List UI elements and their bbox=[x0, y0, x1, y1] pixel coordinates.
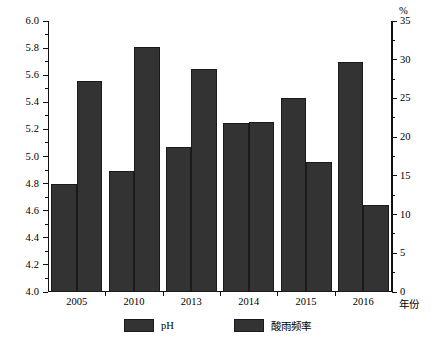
left-minor-tick-mark bbox=[45, 170, 48, 171]
x-axis-title: 年份 bbox=[399, 296, 419, 311]
right-tick-label: 5 bbox=[400, 248, 405, 258]
left-tick-label: 5.8 bbox=[26, 43, 39, 53]
left-tick-mark bbox=[43, 183, 48, 184]
right-minor-tick-mark bbox=[392, 117, 395, 118]
x-category-label: 2005 bbox=[47, 296, 107, 307]
right-tick-mark bbox=[392, 21, 397, 22]
right-tick-mark bbox=[392, 253, 397, 254]
chart-legend: pH 酸雨频率 bbox=[0, 314, 435, 336]
left-tick-mark bbox=[43, 75, 48, 76]
right-tick-mark bbox=[392, 98, 397, 99]
left-minor-tick-mark bbox=[45, 142, 48, 143]
left-minor-tick-mark bbox=[45, 224, 48, 225]
right-tick-mark bbox=[392, 292, 397, 293]
left-tick-label: 5.4 bbox=[26, 97, 39, 107]
bar-acid-rain-frequency bbox=[363, 205, 389, 292]
right-tick-label: 25 bbox=[400, 93, 411, 103]
right-tick-mark bbox=[392, 137, 397, 138]
left-minor-tick-mark bbox=[45, 88, 48, 89]
x-category-label: 2010 bbox=[104, 296, 164, 307]
left-minor-tick-mark bbox=[45, 278, 48, 279]
left-tick-label: 4.4 bbox=[26, 233, 39, 243]
x-category-label: 2013 bbox=[161, 296, 221, 307]
right-minor-tick-mark bbox=[392, 272, 395, 273]
x-category-label: 2014 bbox=[219, 296, 279, 307]
left-minor-tick-mark bbox=[45, 61, 48, 62]
left-tick-label: 6.0 bbox=[26, 16, 39, 26]
left-tick-label: 5.2 bbox=[26, 124, 39, 134]
right-tick-mark bbox=[392, 59, 397, 60]
right-tick-mark bbox=[392, 175, 397, 176]
left-tick-label: 4.2 bbox=[26, 260, 39, 270]
acid-rain-chart: 4.04.24.44.64.85.05.25.45.65.86.0 051015… bbox=[0, 0, 435, 340]
legend-item-acid-rain-frequency[interactable]: 酸雨频率 bbox=[234, 318, 311, 333]
bar-ph bbox=[109, 171, 135, 292]
right-axis-unit-label: % bbox=[399, 5, 408, 16]
bar-acid-rain-frequency bbox=[306, 162, 332, 292]
left-tick-mark bbox=[43, 292, 48, 293]
left-minor-tick-mark bbox=[45, 34, 48, 35]
bar-acid-rain-frequency bbox=[77, 81, 103, 292]
legend-label-ph: pH bbox=[161, 320, 174, 331]
left-tick-label: 4.8 bbox=[26, 179, 39, 189]
right-tick-label: 10 bbox=[400, 210, 411, 220]
x-category-label: 2016 bbox=[333, 296, 393, 307]
left-tick-mark bbox=[43, 264, 48, 265]
right-tick-mark bbox=[392, 214, 397, 215]
left-tick-mark bbox=[43, 156, 48, 157]
left-tick-mark bbox=[43, 129, 48, 130]
left-tick-mark bbox=[43, 237, 48, 238]
left-minor-tick-mark bbox=[45, 115, 48, 116]
bar-acid-rain-frequency bbox=[134, 47, 160, 292]
bar-ph bbox=[281, 98, 307, 292]
left-tick-mark bbox=[43, 102, 48, 103]
bar-acid-rain-frequency bbox=[191, 69, 217, 292]
bar-ph bbox=[223, 123, 249, 292]
left-tick-label: 5.6 bbox=[26, 70, 39, 80]
bar-ph bbox=[51, 184, 77, 292]
right-minor-tick-mark bbox=[392, 40, 395, 41]
left-tick-label: 4.0 bbox=[26, 287, 39, 297]
legend-swatch-acid-rain-frequency bbox=[234, 319, 264, 332]
bar-ph bbox=[338, 62, 364, 292]
left-tick-mark bbox=[43, 21, 48, 22]
bar-ph bbox=[166, 147, 192, 292]
x-category-label: 2015 bbox=[276, 296, 336, 307]
legend-item-ph[interactable]: pH bbox=[124, 319, 174, 332]
right-tick-label: 15 bbox=[400, 171, 411, 181]
left-tick-mark bbox=[43, 48, 48, 49]
legend-label-acid-rain-frequency: 酸雨频率 bbox=[271, 318, 311, 333]
right-tick-label: 20 bbox=[400, 132, 411, 142]
left-tick-label: 4.6 bbox=[26, 206, 39, 216]
left-minor-tick-mark bbox=[45, 251, 48, 252]
bar-acid-rain-frequency bbox=[249, 122, 275, 292]
right-tick-label: 35 bbox=[400, 16, 411, 26]
right-minor-tick-mark bbox=[392, 233, 395, 234]
left-tick-mark bbox=[43, 210, 48, 211]
left-tick-label: 5.0 bbox=[26, 152, 39, 162]
legend-swatch-ph bbox=[124, 319, 154, 332]
right-minor-tick-mark bbox=[392, 195, 395, 196]
right-tick-label: 30 bbox=[400, 55, 411, 65]
right-minor-tick-mark bbox=[392, 79, 395, 80]
right-minor-tick-mark bbox=[392, 156, 395, 157]
left-minor-tick-mark bbox=[45, 197, 48, 198]
